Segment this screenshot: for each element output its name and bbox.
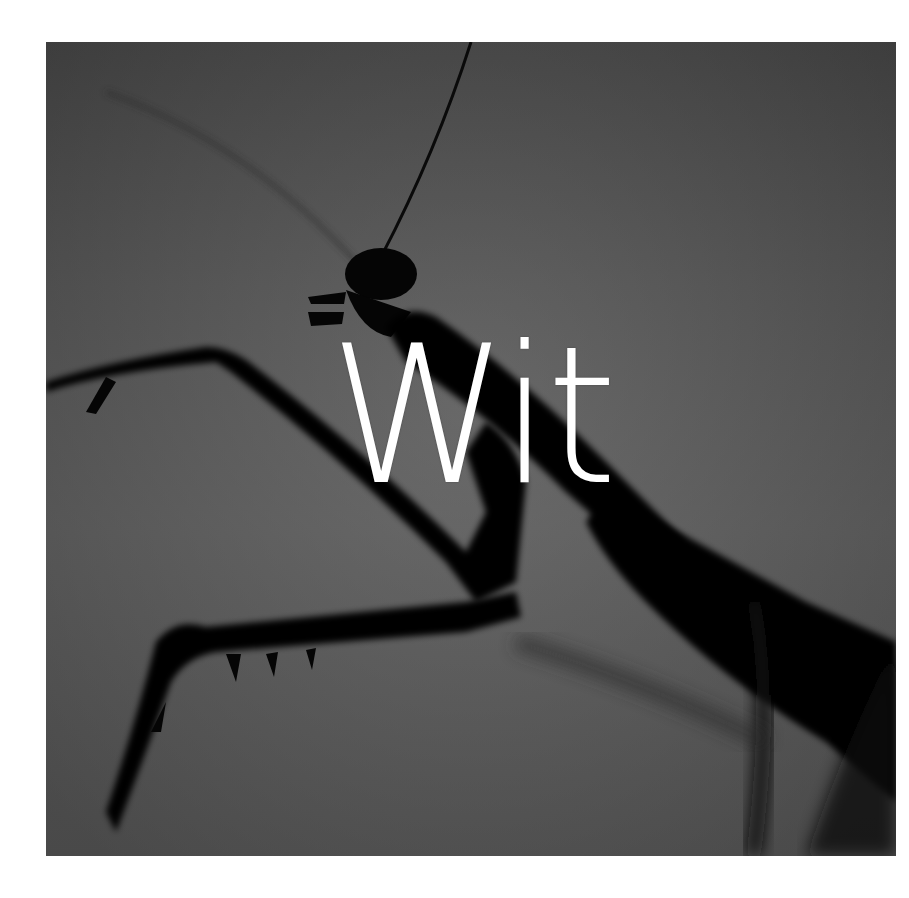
cover-title-text: Wit (329, 322, 613, 512)
cover-title: Wit (46, 322, 896, 512)
cover-photo: Wit (46, 42, 896, 856)
